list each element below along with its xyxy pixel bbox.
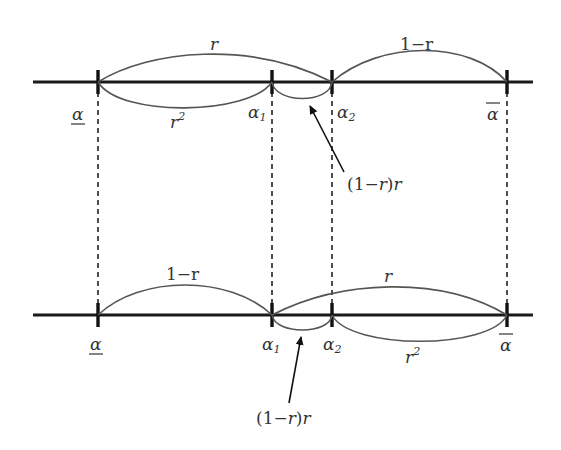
top-alpha-2-label: α2 bbox=[337, 102, 355, 124]
top-point-alpha-low: α bbox=[71, 104, 85, 124]
bottom-arc-r bbox=[272, 287, 507, 315]
bottom-alpha-low-label: α bbox=[90, 334, 102, 354]
bottom-point-alpha-high: α bbox=[499, 334, 513, 355]
bottom-arc-small bbox=[272, 315, 332, 330]
top-arc-r-squared bbox=[98, 82, 272, 108]
top-point-alpha-high: α bbox=[486, 103, 500, 124]
top-alpha-high-label: α bbox=[487, 104, 499, 124]
top-annotation-label: (1−r)r bbox=[347, 174, 402, 194]
top-number-line: r 1−r r2 α α1 α2 α (1−r)r bbox=[33, 34, 533, 194]
bottom-arc-r-squared bbox=[332, 315, 507, 341]
bottom-annotation-label: (1−r)r bbox=[256, 408, 311, 428]
bottom-alpha-high-label: α bbox=[500, 335, 512, 355]
top-label-r-squared: r2 bbox=[170, 110, 185, 132]
top-alpha-low-label: α bbox=[72, 104, 84, 124]
bottom-alpha-2-label: α2 bbox=[323, 334, 341, 356]
bottom-label-r: r bbox=[384, 266, 393, 286]
bottom-label-r-squared: r2 bbox=[405, 345, 420, 367]
top-arc-small bbox=[272, 82, 332, 99]
bottom-annotation-arrow bbox=[289, 337, 301, 403]
bottom-label-1-minus-r: 1−r bbox=[166, 264, 200, 284]
golden-section-diagram: r 1−r r2 α α1 α2 α (1−r)r 1−r r r2 bbox=[0, 0, 561, 450]
bottom-number-line: 1−r r r2 α α1 α2 α (1−r)r bbox=[33, 264, 533, 428]
top-label-r: r bbox=[210, 34, 219, 54]
top-label-1-minus-r: 1−r bbox=[400, 34, 434, 54]
top-alpha-1-label: α1 bbox=[248, 102, 266, 124]
bottom-arc-1-minus-r bbox=[98, 285, 272, 315]
bottom-alpha-1-label: α1 bbox=[262, 334, 280, 356]
top-arc-1-minus-r bbox=[332, 51, 507, 83]
bottom-point-alpha-low: α bbox=[89, 334, 103, 354]
top-arc-r bbox=[98, 54, 332, 82]
projection-lines bbox=[98, 92, 507, 305]
